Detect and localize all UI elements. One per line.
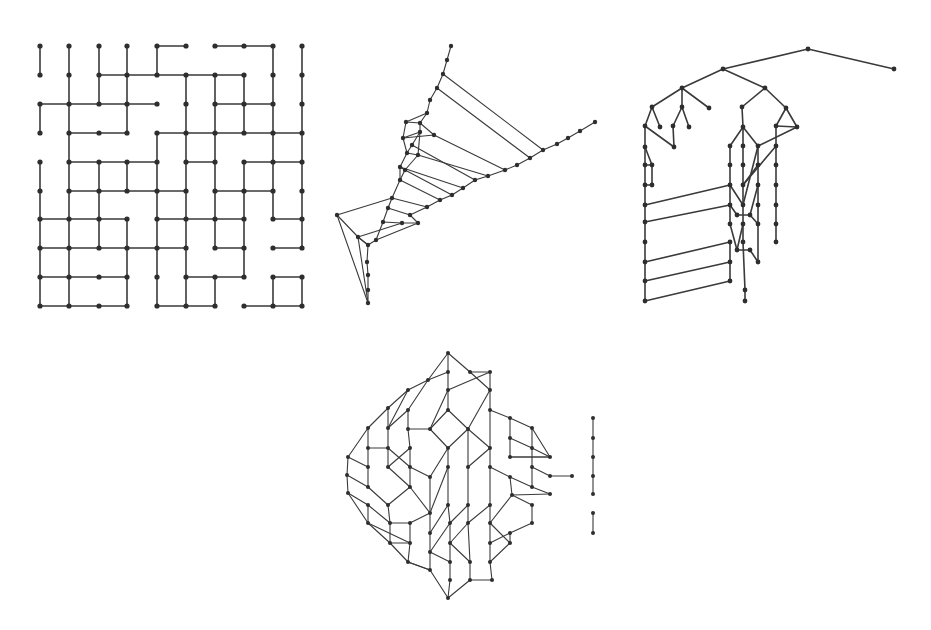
graph-edge xyxy=(337,215,368,303)
graph-node xyxy=(643,124,648,129)
graph-node xyxy=(66,274,71,279)
graph-edge xyxy=(448,505,450,523)
graph-edge xyxy=(434,135,505,170)
graph-edge xyxy=(408,429,410,448)
graph-edge xyxy=(543,144,557,150)
graph-node xyxy=(728,260,733,265)
graph-node xyxy=(154,274,159,279)
graph-node xyxy=(154,216,159,221)
graph-node xyxy=(124,130,129,135)
graph-node xyxy=(404,120,408,124)
graph-node xyxy=(37,216,42,221)
graph-node xyxy=(270,101,275,106)
graph-node xyxy=(425,111,429,115)
graph-node xyxy=(740,105,745,110)
graph-node xyxy=(530,465,534,469)
graph-node xyxy=(774,203,779,208)
graph-node xyxy=(212,245,217,250)
graph-edge xyxy=(388,487,410,505)
graph-node xyxy=(446,596,450,600)
graph-edge xyxy=(776,108,786,126)
graph-node xyxy=(154,188,159,193)
graph-node xyxy=(578,129,582,133)
graph-edge xyxy=(490,495,512,523)
graph-node xyxy=(763,86,768,91)
graph-node xyxy=(466,503,470,507)
graph-node xyxy=(643,279,648,284)
graph-node xyxy=(345,473,349,477)
graph-node xyxy=(591,474,595,478)
graph-node xyxy=(366,465,370,469)
graph-edge xyxy=(652,88,682,107)
graph-edge xyxy=(645,185,730,205)
graph-node xyxy=(743,299,748,304)
graph-node xyxy=(593,120,597,124)
graph-edge xyxy=(682,69,723,88)
graph-node xyxy=(658,125,663,130)
graph-edge xyxy=(758,127,797,146)
graph-node xyxy=(212,216,217,221)
graph-node xyxy=(728,240,733,245)
graph-edge xyxy=(510,477,532,487)
graph-edge xyxy=(645,147,652,165)
graph-node xyxy=(756,163,761,168)
graph-edge xyxy=(673,107,682,126)
graph-node xyxy=(270,43,275,48)
graph-node xyxy=(530,503,534,507)
graph-node xyxy=(488,541,492,545)
graph-node xyxy=(741,125,746,130)
graph-node xyxy=(488,465,492,469)
graph-node xyxy=(183,130,188,135)
graph-node xyxy=(356,235,360,239)
graph-node xyxy=(774,240,779,245)
graph-node xyxy=(756,260,761,265)
graph-node xyxy=(154,245,159,250)
graph-node xyxy=(403,168,407,172)
graph-node xyxy=(386,503,390,507)
graph-node xyxy=(154,101,159,106)
graph-node xyxy=(416,153,420,157)
graph-node xyxy=(488,503,492,507)
graph-node xyxy=(124,216,129,221)
graph-edge xyxy=(532,467,550,476)
graph-edge xyxy=(368,487,388,505)
graph-node xyxy=(735,213,740,218)
graph-edge xyxy=(448,372,490,390)
graph-node xyxy=(212,274,217,279)
graph-node xyxy=(96,72,101,77)
graph-node xyxy=(299,245,304,250)
graph-node xyxy=(37,188,42,193)
graph-node xyxy=(212,303,217,308)
graph-edge xyxy=(430,552,450,562)
graph-edge xyxy=(358,237,368,303)
graph-edge xyxy=(448,580,470,598)
graph-node xyxy=(448,541,452,545)
graph-edge xyxy=(388,410,408,428)
graph-node xyxy=(450,193,454,197)
graph-node xyxy=(432,133,436,137)
graph-node xyxy=(446,351,450,355)
graph-node xyxy=(270,274,275,279)
graph-edge xyxy=(517,158,530,165)
graph-node xyxy=(466,427,470,431)
graph-edge xyxy=(437,74,443,88)
graph-node xyxy=(728,144,733,149)
graph-node xyxy=(270,216,275,221)
graph-node xyxy=(743,288,748,293)
graph-edge xyxy=(468,390,490,429)
graph-edge xyxy=(408,562,430,570)
graph-node xyxy=(299,101,304,106)
graph-node xyxy=(428,531,432,535)
graph-node xyxy=(124,274,129,279)
graph-node xyxy=(241,43,246,48)
graph-node xyxy=(270,303,275,308)
graph-edge xyxy=(388,390,408,408)
grid-graph-drawing xyxy=(37,43,304,308)
graph-node xyxy=(774,144,779,149)
graph-node xyxy=(406,408,410,412)
graph-node xyxy=(446,446,450,450)
graph-node xyxy=(555,142,559,146)
graph-edge xyxy=(470,372,490,390)
graph-edge xyxy=(348,457,368,467)
graph-edge xyxy=(347,475,348,493)
